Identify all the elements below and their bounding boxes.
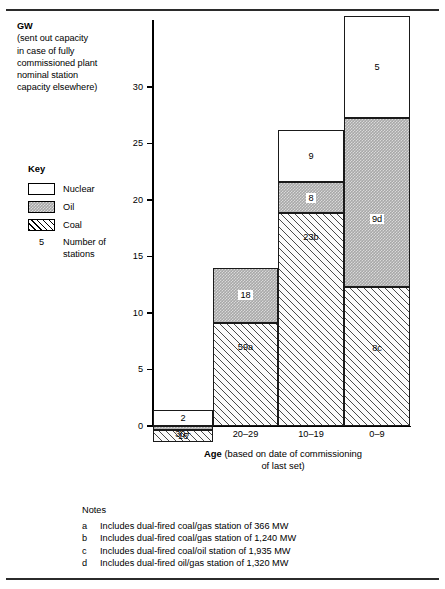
bar-segment-value-label: 5 xyxy=(372,62,381,72)
x-axis-category-label: 0–9 xyxy=(344,429,410,440)
notes-block: Notes aIncludes dual-fired coal/gas stat… xyxy=(82,505,422,570)
bar-segment-value-label: 59a xyxy=(236,342,255,352)
y-axis-tick-label: 30 xyxy=(133,83,143,92)
note-key: a xyxy=(82,520,100,533)
y-axis-tick-label: 15 xyxy=(133,252,143,261)
y-axis-line xyxy=(152,20,154,427)
bar-segment-nuclear[interactable]: 9 xyxy=(278,130,344,183)
y-axis-tick-mark xyxy=(147,143,153,144)
chart-page: GW (sent out capacity in case of fully c… xyxy=(0,0,445,589)
bar-segment-value-label: 2 xyxy=(178,413,187,423)
note-row: aIncludes dual-fired coal/gas station of… xyxy=(82,520,422,533)
bar-segment-value-label: 8 xyxy=(306,193,315,203)
x-axis-title: Age (based on date of commissioning of l… xyxy=(152,448,414,473)
note-key: c xyxy=(82,545,100,558)
note-text: Includes dual-fired coal/gas station of … xyxy=(100,532,296,545)
bar-segment-nuclear[interactable]: 5 xyxy=(344,16,410,118)
x-axis-title-bold: Age xyxy=(204,448,222,459)
y-axis-tick-label: 20 xyxy=(133,196,143,205)
x-axis-category-label: 10–19 xyxy=(278,429,344,440)
y-axis-tick-mark xyxy=(147,256,153,257)
x-axis-title-line-2: of last set) xyxy=(261,460,304,471)
y-axis-tick-mark xyxy=(147,86,153,87)
y-axis-tick-label: 10 xyxy=(133,309,143,318)
x-axis-category-label: 20–29 xyxy=(213,429,278,440)
y-axis-tick-label: 25 xyxy=(133,139,143,148)
notes-title: Notes xyxy=(82,505,422,515)
bar-segment-value-label: 8c xyxy=(370,343,384,353)
bar-segment-value-label: 9d xyxy=(370,214,384,224)
note-text: Includes dual-fired coal/oil station of … xyxy=(100,545,290,558)
y-axis-tick-mark xyxy=(147,312,153,313)
note-text: Includes dual-fired oil/gas station of 1… xyxy=(100,557,288,570)
note-row: bIncludes dual-fired coal/gas station of… xyxy=(82,532,422,545)
y-axis-tick-label: 0 xyxy=(138,422,143,431)
bar-segment-nuclear[interactable]: 2 xyxy=(153,410,213,425)
bar-segment-coal[interactable]: 8c xyxy=(344,287,410,427)
notes-list: aIncludes dual-fired coal/gas station of… xyxy=(82,520,422,570)
y-axis-tick-label: 5 xyxy=(138,365,143,374)
bar-segment-coal[interactable]: 59a xyxy=(213,323,278,426)
bar-segment-value-label: 9 xyxy=(306,151,315,161)
bar-segment-value-label: 23b xyxy=(301,232,320,242)
bar-segment-oil[interactable]: 8 xyxy=(278,182,344,213)
x-axis-category-label: 30+ xyxy=(153,429,213,440)
bar-segment-oil[interactable]: 9d xyxy=(344,118,410,287)
x-axis-title-line-1: (based on date of commissioning xyxy=(224,448,362,459)
bar-segment-coal[interactable]: 23b xyxy=(278,213,344,426)
note-text: Includes dual-fired coal/gas station of … xyxy=(100,520,288,533)
y-axis-tick-mark xyxy=(147,369,153,370)
note-row: cIncludes dual-fired coal/oil station of… xyxy=(82,545,422,558)
note-key: b xyxy=(82,532,100,545)
y-axis-tick-mark xyxy=(147,199,153,200)
bar-segment-oil[interactable]: 18 xyxy=(213,268,278,324)
plot-area: 051015202530 16259a1823b898c9d5 30+20–29… xyxy=(0,0,445,589)
note-key: d xyxy=(82,557,100,570)
note-row: dIncludes dual-fired oil/gas station of … xyxy=(82,557,422,570)
bar-segment-value-label: 18 xyxy=(238,290,252,300)
